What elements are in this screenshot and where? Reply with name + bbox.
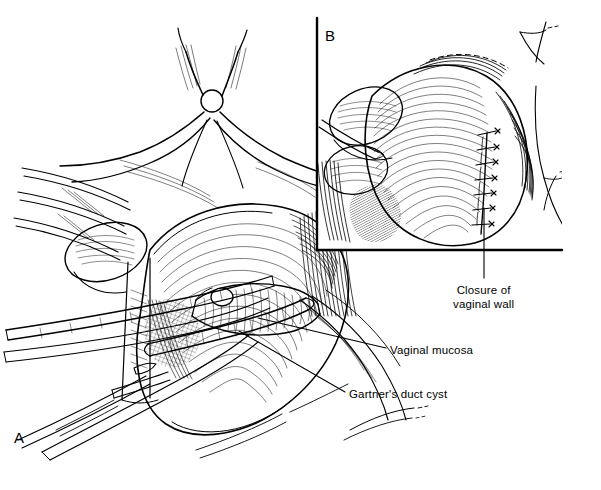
panel-label-b: B [325, 28, 335, 43]
label-closure-of-vaginal-wall: Closure of vaginal wall [453, 283, 514, 311]
label-closure-line2: vaginal wall [453, 297, 514, 311]
surgical-illustration-artwork [0, 0, 601, 490]
panel-label-a: A [14, 430, 24, 445]
label-vaginal-mucosa: Vaginal mucosa [390, 343, 473, 357]
label-gartners-duct-cyst: Gartner's duct cyst [349, 387, 447, 401]
label-closure-line1: Closure of [453, 283, 514, 297]
panel-b-contents [317, 18, 570, 250]
medical-illustration-figure: A B Closure of vaginal wall Vaginal muco… [0, 0, 601, 490]
